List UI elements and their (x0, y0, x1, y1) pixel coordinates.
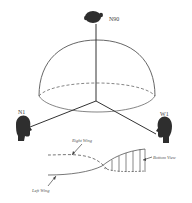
head-silhouette-icon (16, 115, 32, 141)
label-n1: N1 (18, 109, 25, 115)
label-w1: W1 (160, 111, 169, 117)
diagram-canvas: N90 N1 W1 Right Wing Left Wing Bot (0, 0, 192, 203)
wing-figure: Right Wing Left Wing Bottom View (31, 138, 176, 193)
wing-lower-edge (104, 168, 145, 172)
label-n90: N90 (109, 16, 119, 22)
axis-to-n1 (30, 101, 96, 127)
equator-back-dashed (39, 83, 155, 96)
label-right-wing: Right Wing (71, 138, 93, 143)
hemisphere-diagram: N90 N1 W1 Right Wing Left Wing Bot (0, 0, 192, 203)
head-silhouette-icon (84, 11, 103, 23)
label-bottom-view: Bottom View (153, 155, 176, 160)
label-left-wing: Left Wing (31, 188, 50, 193)
left-wing-curve (48, 149, 145, 175)
head-silhouette-icon (156, 116, 172, 143)
axis-to-w1 (96, 101, 156, 134)
equator-front-solid (39, 96, 155, 112)
